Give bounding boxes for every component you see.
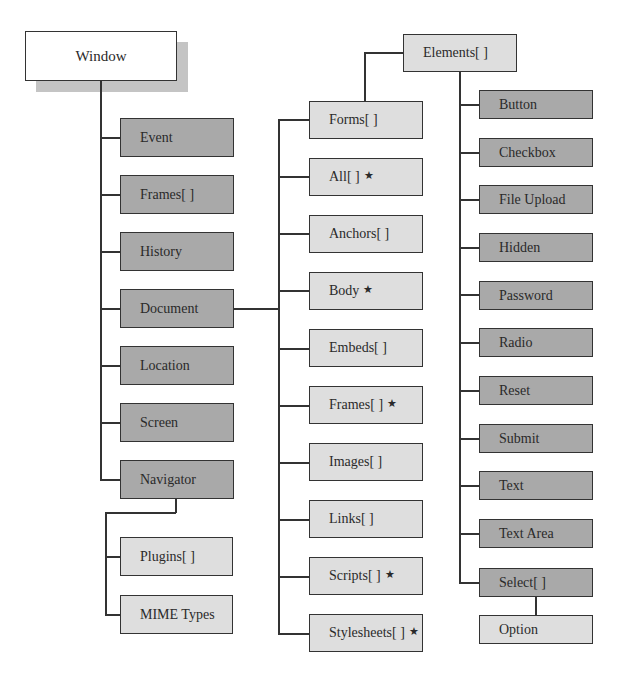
connector [278,233,309,235]
node-label: Event [140,130,173,146]
node-label: Window [75,48,126,65]
connector [459,438,479,440]
node-label: Button [499,97,537,113]
star-icon: ★ [409,625,419,638]
node-label: Plugins[ ] [140,549,195,565]
node-text-area: Text Area [479,519,593,548]
node-body: Body ★ [309,272,423,310]
connector [100,137,120,139]
dom-hierarchy-diagram: Window Event Frames[ ] History Document … [0,0,620,674]
node-label: Navigator [140,472,196,488]
node-label: Screen [140,415,178,431]
node-label: Anchors[ ] [329,226,389,242]
connector [105,512,107,615]
node-all: All[ ] ★ [309,158,423,196]
node-frames: Frames[ ] [120,175,234,214]
node-label: Checkbox [499,145,556,161]
connector [278,348,309,350]
node-elements: Elements[ ] [403,34,517,72]
node-option: Option [479,615,593,644]
node-label: Option [499,622,538,638]
node-checkbox: Checkbox [479,138,593,167]
connector [459,72,461,583]
node-embeds: Embeds[ ] [309,329,423,367]
node-label: Reset [499,383,530,399]
node-plugins: Plugins[ ] [120,537,233,576]
connector [459,152,479,154]
connector [459,485,479,487]
node-forms: Forms[ ] [309,101,423,139]
node-screen: Screen [120,403,234,442]
node-label: Elements[ ] [423,45,488,61]
connector [278,119,309,121]
connector [278,462,309,464]
node-label: Text Area [499,526,554,542]
node-text: Text [479,471,593,500]
connector [278,290,309,292]
node-document: Document [120,289,234,328]
node-label: MIME Types [140,607,215,623]
node-select: Select[ ] [479,568,593,597]
node-label: Scripts[ ] [329,568,381,584]
connector [100,479,120,481]
node-button: Button [479,90,593,119]
connector [278,119,280,634]
connector [175,499,177,513]
connector [234,308,279,310]
node-mime-types: MIME Types [120,595,233,634]
connector [105,512,176,514]
node-label: Embeds[ ] [329,340,387,356]
connector [459,199,479,201]
connector [459,104,479,106]
star-icon: ★ [364,169,374,182]
node-label: Radio [499,335,532,351]
connector [100,194,120,196]
node-label: Images[ ] [329,454,382,470]
node-window: Window [25,31,177,81]
node-label: Text [499,478,524,494]
node-submit: Submit [479,424,593,453]
connector [278,176,309,178]
connector [100,308,120,310]
node-anchors: Anchors[ ] [309,215,423,253]
node-event: Event [120,118,234,157]
star-icon: ★ [387,397,397,410]
connector [100,422,120,424]
node-label: File Upload [499,192,566,208]
connector [459,342,479,344]
node-history: History [120,232,234,271]
node-label: Frames[ ] [329,397,383,413]
node-password: Password [479,281,593,310]
node-label: All[ ] [329,169,360,185]
node-location: Location [120,346,234,385]
node-navigator: Navigator [120,460,234,499]
connector [459,582,479,584]
node-label: Document [140,301,198,317]
node-doc-frames: Frames[ ] ★ [309,386,423,424]
connector [105,614,120,616]
connector [278,405,309,407]
node-reset: Reset [479,376,593,405]
node-images: Images[ ] [309,443,423,481]
connector [459,533,479,535]
node-label: History [140,244,182,260]
connector [278,576,309,578]
connector [364,52,403,54]
connector [100,81,102,479]
node-label: Links[ ] [329,511,374,527]
node-label: Stylesheets[ ] [329,625,405,641]
connector [459,294,479,296]
connector [459,247,479,249]
node-label: Location [140,358,190,374]
node-label: Body [329,283,359,299]
node-file-upload: File Upload [479,185,593,214]
star-icon: ★ [363,283,373,296]
node-label: Hidden [499,240,540,256]
connector [100,365,120,367]
connector [535,597,537,615]
node-links: Links[ ] [309,500,423,538]
connector [105,556,120,558]
node-radio: Radio [479,328,593,357]
node-hidden: Hidden [479,233,593,262]
connector [278,519,309,521]
